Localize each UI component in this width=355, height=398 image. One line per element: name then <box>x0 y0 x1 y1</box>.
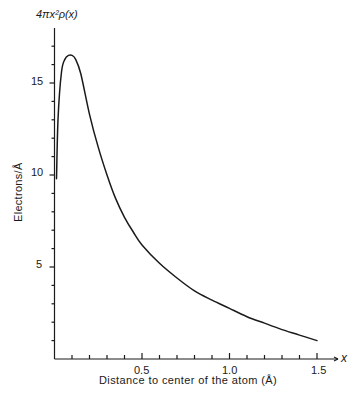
y-tick-label-15: 15 <box>31 75 43 87</box>
y-tick-label-10: 10 <box>31 166 43 178</box>
y-axis-title: Electrons/Å <box>12 162 24 222</box>
density-curve <box>57 55 318 341</box>
y-axis-top-label: 4πx²ρ(x) <box>36 8 78 20</box>
chart-plot-area <box>0 0 355 398</box>
x-tick-label-1-5: 1.5 <box>311 364 326 376</box>
x-axis-variable: x <box>341 351 347 365</box>
x-axis-title: Distance to center of the atom (Å) <box>99 374 277 386</box>
y-tick-label-5: 5 <box>36 258 42 270</box>
axes <box>50 28 339 361</box>
